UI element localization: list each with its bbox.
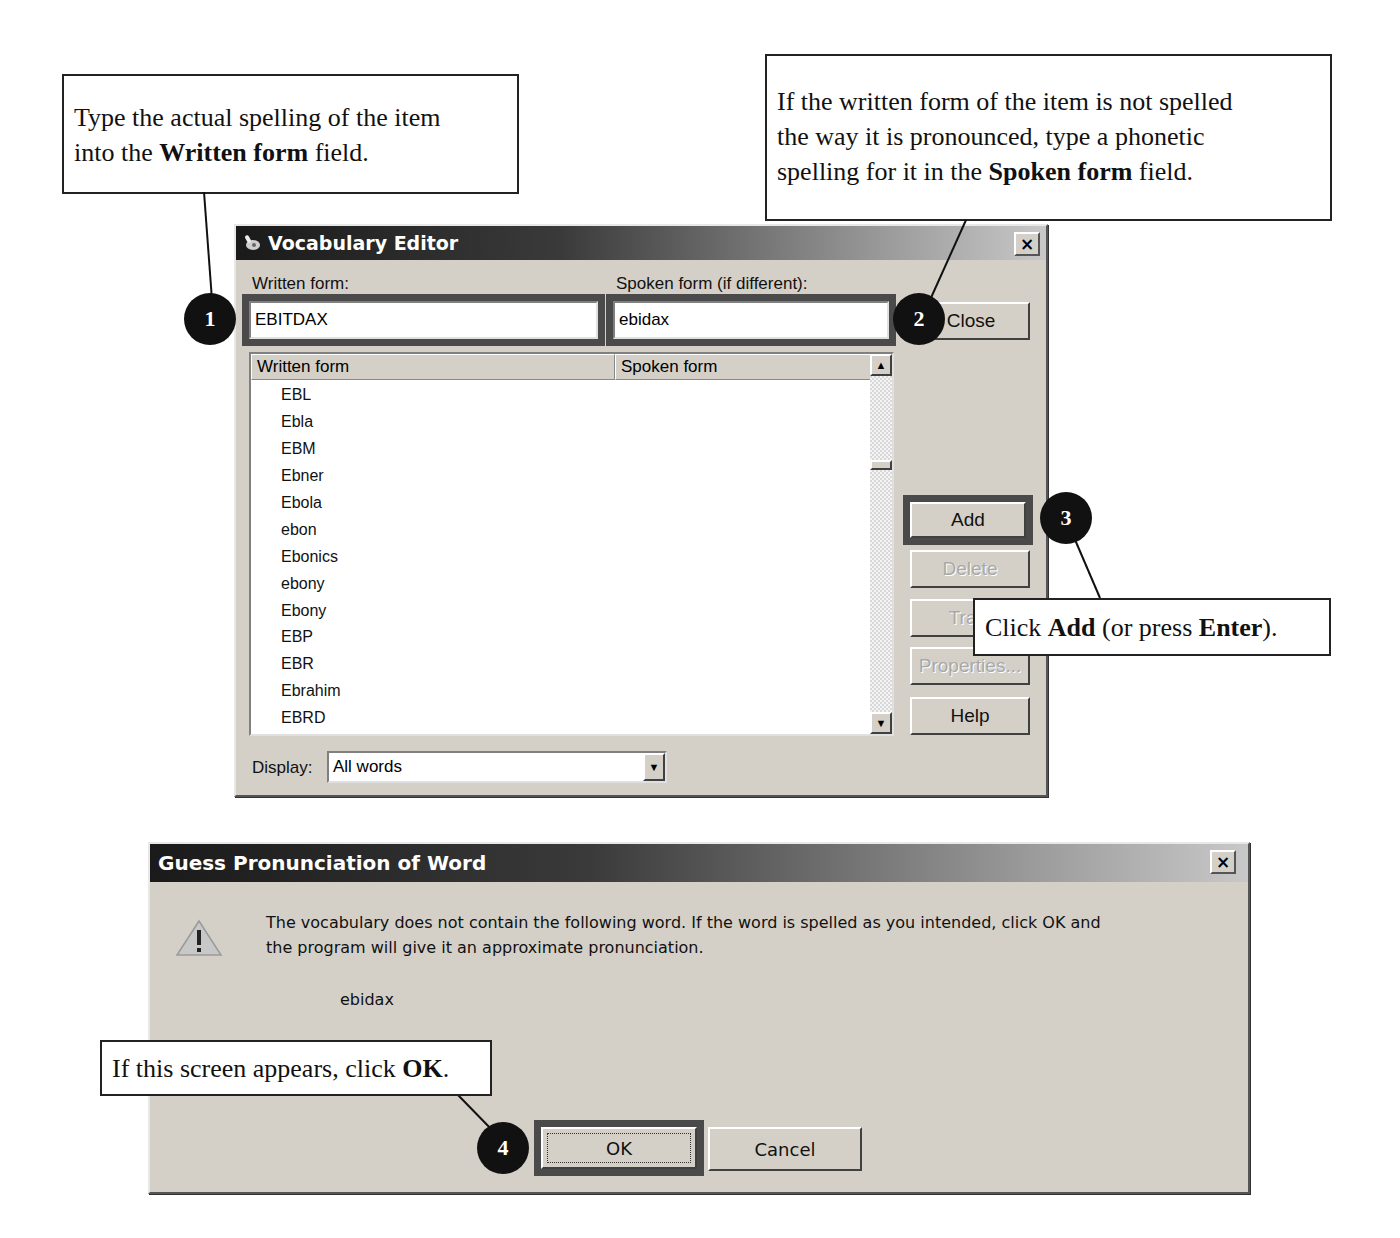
callout-written-form: Type the actual spelling of the item int…	[62, 74, 519, 194]
list-item[interactable]: Ebla	[281, 409, 341, 436]
dialog-title: Vocabulary Editor	[268, 232, 458, 254]
step-badge-4: 4	[477, 1122, 529, 1174]
callout-spoken-form: If the written form of the item is not s…	[765, 54, 1332, 221]
message-line-2: the program will give it an approximate …	[266, 935, 1101, 960]
warning-icon	[174, 918, 224, 958]
column-header-written-form[interactable]: Written form	[251, 354, 615, 380]
spoken-form-input[interactable]: ebidax	[613, 301, 889, 339]
arrow-down-icon: ▼	[876, 717, 887, 729]
message-line-1: The vocabulary does not contain the foll…	[266, 910, 1101, 935]
written-form-input[interactable]: EBITDAX	[249, 301, 598, 339]
delete-button[interactable]: Delete	[910, 550, 1030, 588]
callout-text: the way it is pronounced, type a phoneti…	[777, 119, 1320, 154]
list-rows: EBL Ebla EBM Ebner Ebola ebon Ebonics eb…	[281, 382, 341, 732]
guess-dialog-titlebar[interactable]: Guess Pronunciation of Word	[150, 844, 1248, 882]
list-item[interactable]: EBRD	[281, 705, 341, 732]
properties-button-label: Properties...	[919, 655, 1021, 677]
step-badge-3: 3	[1040, 492, 1092, 544]
callout-text: If this screen appears, click OK.	[112, 1051, 449, 1086]
unknown-word: ebidax	[340, 987, 394, 1012]
ok-button[interactable]: OK	[541, 1127, 697, 1169]
close-icon: ×	[1020, 236, 1034, 253]
guess-pronunciation-dialog: Guess Pronunciation of Word × The vocabu…	[148, 842, 1250, 1194]
step-badge-1: 1	[184, 293, 236, 345]
dropdown-button[interactable]: ▼	[643, 753, 665, 781]
list-item[interactable]: Ebola	[281, 490, 341, 517]
list-item[interactable]: EBL	[281, 382, 341, 409]
arrow-up-icon: ▲	[876, 359, 887, 371]
scroll-thumb[interactable]	[870, 460, 892, 470]
close-icon: ×	[1216, 854, 1230, 871]
list-item[interactable]: ebon	[281, 516, 341, 543]
display-selected-value: All words	[333, 757, 402, 777]
dialog-title: Guess Pronunciation of Word	[158, 851, 486, 875]
display-dropdown[interactable]: All words ▼	[327, 751, 667, 783]
cancel-button-label: Cancel	[755, 1139, 816, 1160]
callout-add: Click Add (or press Enter).	[973, 598, 1331, 656]
list-item[interactable]: EBR	[281, 651, 341, 678]
callout-text: Type the actual spelling of the item	[74, 100, 507, 135]
callout-text: into the Written form field.	[74, 135, 507, 170]
callout-ok: If this screen appears, click OK.	[100, 1040, 492, 1096]
column-label: Written form	[257, 357, 349, 377]
written-form-value: EBITDAX	[255, 310, 328, 330]
step-badge-2: 2	[893, 293, 945, 345]
column-label: Spoken form	[621, 357, 717, 377]
vocabulary-list[interactable]: Written form Spoken form EBL Ebla EBM Eb…	[249, 352, 894, 736]
add-button[interactable]: Add	[910, 502, 1026, 538]
help-button-label: Help	[950, 705, 989, 727]
cancel-button[interactable]: Cancel	[708, 1127, 862, 1171]
list-item[interactable]: ebony	[281, 570, 341, 597]
list-item[interactable]: Ebony	[281, 597, 341, 624]
scroll-down-button[interactable]: ▼	[870, 712, 892, 734]
delete-button-label: Delete	[943, 558, 998, 580]
written-form-label: Written form:	[252, 274, 349, 294]
callout-text: spelling for it in the Spoken form field…	[777, 154, 1320, 189]
close-button-label: Close	[947, 310, 996, 332]
list-item[interactable]: EBM	[281, 436, 341, 463]
app-icon	[244, 234, 264, 252]
spoken-form-value: ebidax	[619, 310, 669, 330]
chevron-down-icon: ▼	[649, 761, 660, 773]
list-item[interactable]: Ebner	[281, 463, 341, 490]
close-window-button[interactable]: ×	[1210, 850, 1236, 874]
list-scrollbar[interactable]: ▲ ▼	[870, 354, 892, 734]
spoken-form-label: Spoken form (if different):	[616, 274, 808, 294]
add-button-label: Add	[951, 509, 985, 531]
list-item[interactable]: Ebonics	[281, 543, 341, 570]
focus-rectangle	[547, 1133, 691, 1163]
list-item[interactable]: Ebrahim	[281, 678, 341, 705]
close-window-button[interactable]: ×	[1014, 232, 1040, 256]
help-button[interactable]: Help	[910, 697, 1030, 735]
guess-message: The vocabulary does not contain the foll…	[266, 910, 1101, 960]
callout-text: If the written form of the item is not s…	[777, 84, 1320, 119]
display-label: Display:	[252, 758, 312, 778]
list-item[interactable]: EBP	[281, 624, 341, 651]
column-header-spoken-form[interactable]: Spoken form	[615, 354, 872, 380]
scroll-up-button[interactable]: ▲	[870, 354, 892, 376]
callout-text: Click Add (or press Enter).	[985, 610, 1278, 645]
list-header: Written form Spoken form	[251, 354, 872, 380]
vocabulary-editor-titlebar[interactable]: Vocabulary Editor	[236, 226, 1046, 260]
